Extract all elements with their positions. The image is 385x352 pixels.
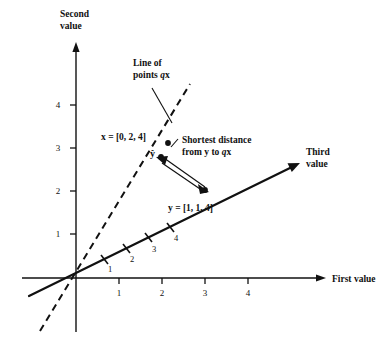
second-value-tick-label-4: 4 (56, 100, 61, 110)
third-value-axis-line (29, 167, 292, 296)
first-value-tick-label-1: 1 (117, 288, 122, 298)
second-value-tick-label-1: 1 (56, 229, 61, 239)
third-value-tick-label-1: 1 (108, 264, 112, 274)
third-value-tick-label-4: 4 (174, 233, 179, 243)
shortest-distance-label-line1: Shortest distance (182, 135, 251, 145)
figure-canvas: Second value First value Third value 4 3… (0, 0, 385, 352)
second-value-tick-label-2: 2 (56, 186, 61, 196)
shortest-distance-arrow-edge-bottom (162, 163, 203, 191)
shortest-distance-label-line2: from y to qx (182, 147, 231, 157)
point-yhat-label: ŷ (150, 148, 155, 159)
line-of-points-leader (152, 88, 172, 123)
first-value-axis-label: First value (332, 274, 376, 284)
second-value-axis-arrowhead (72, 42, 79, 52)
point-x-label: x = [0, 2, 4] (101, 132, 146, 142)
third-value-axis-label-line2: value (306, 159, 328, 169)
point-x-marker (165, 140, 171, 146)
line-of-points-label-x: x (165, 70, 170, 80)
second-value-tick-label-3: 3 (56, 143, 61, 153)
first-value-tick-label-3: 3 (203, 288, 208, 298)
shortest-distance-from: from (182, 147, 204, 157)
point-y-label: y = [1, 1, 4] (168, 203, 213, 213)
second-value-axis-label-line1: Second (60, 9, 90, 19)
point-x-value: = [0, 2, 4] (106, 132, 146, 142)
line-of-points-label-points: points (133, 70, 160, 80)
first-value-tick-label-2: 2 (160, 288, 165, 298)
shortest-distance-to: to (209, 147, 222, 157)
shortest-distance-arrow-edge-top (164, 158, 205, 187)
svg-text:points qx: points qx (133, 70, 170, 80)
third-value-axis-label-line1: Third (306, 147, 330, 157)
point-y-value: = [1, 1, 4] (173, 203, 213, 213)
shortest-distance-x: x (226, 147, 231, 157)
shortest-distance-arrow (156, 156, 209, 194)
shortest-distance-leader (171, 139, 178, 147)
third-value-tick-label-2: 2 (130, 254, 134, 264)
third-value-axis (29, 163, 300, 296)
third-value-tick-label-3: 3 (152, 244, 156, 254)
second-value-axis (70, 42, 80, 332)
line-of-points-label-line2: points qx (133, 70, 170, 80)
first-value-axis (22, 274, 326, 284)
first-value-tick-label-4: 4 (246, 288, 251, 298)
line-of-points-label-line1: Line of (133, 58, 163, 68)
first-value-axis-arrowhead (316, 274, 326, 281)
vector-geometry-figure: Second value First value Third value 4 3… (0, 0, 385, 352)
second-value-axis-label-line2: value (60, 21, 82, 31)
